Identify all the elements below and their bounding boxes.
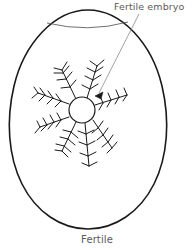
fertile-egg-figure: Fertile embryo Fertile xyxy=(0,0,194,250)
egg-diagram-svg xyxy=(0,0,194,250)
blastoderm-disc xyxy=(69,97,95,123)
fertile-embryo-callout-label: Fertile embryo xyxy=(114,1,184,13)
figure-caption: Fertile xyxy=(0,233,194,246)
